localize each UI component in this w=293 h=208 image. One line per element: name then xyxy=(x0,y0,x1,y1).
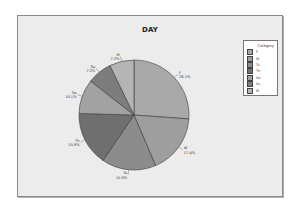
slice-percent: 7.2% xyxy=(110,57,120,61)
slice-percent: 17.4% xyxy=(184,151,196,155)
leader-line xyxy=(179,147,183,150)
legend-label: Th xyxy=(256,69,260,73)
pie-slices xyxy=(79,60,189,170)
leader-line xyxy=(121,57,122,62)
legend-swatch xyxy=(247,68,253,74)
legend-swatch xyxy=(247,75,253,81)
legend-label: Su xyxy=(256,82,260,86)
slice-percent: 10.1% xyxy=(65,95,77,99)
leader-line xyxy=(81,140,85,142)
legend-label: Sa xyxy=(256,76,260,80)
legend-item-m: M xyxy=(244,87,277,93)
legend-swatch xyxy=(247,49,253,55)
pie-slice-f xyxy=(134,60,189,119)
leader-line xyxy=(174,74,178,77)
legend-label: Tu xyxy=(256,63,260,67)
legend-title: Category xyxy=(244,41,277,49)
slice-percent: 7.2% xyxy=(86,69,96,73)
chart-frame: DAY F26.1%W17.4%Tu15.9%Th15.9%Sa10.1%Su7… xyxy=(17,15,283,197)
legend-swatch xyxy=(247,81,253,87)
leader-line xyxy=(96,68,99,72)
slice-percent: 15.9% xyxy=(68,143,80,147)
legend-label: W xyxy=(256,57,259,61)
slice-percent: 15.9% xyxy=(116,176,128,180)
legend-label: M xyxy=(256,89,259,93)
legend: Category F W Tu Th Sa Su M xyxy=(243,40,278,96)
leader-line xyxy=(78,95,83,97)
legend-label: F xyxy=(256,50,258,54)
legend-swatch xyxy=(247,88,253,94)
legend-swatch xyxy=(247,56,253,62)
slice-percent: 26.1% xyxy=(179,75,191,79)
legend-swatch xyxy=(247,62,253,68)
